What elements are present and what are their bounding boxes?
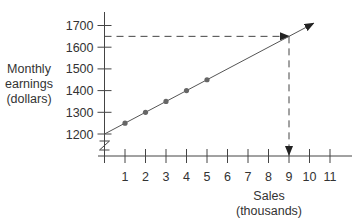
data-point [184,88,189,93]
x-tick-label: 10 [303,170,317,184]
x-tick-label: 8 [265,170,272,184]
chart: 120013001400150016001700 1234567891011 [0,0,360,221]
x-tick-label: 4 [183,170,190,184]
y-tick-label: 1200 [66,128,94,142]
x-tick-label: 3 [163,170,170,184]
x-axis-label-line-1: Sales [224,189,314,204]
y-axis-label: Monthly earnings (dollars) [0,62,58,107]
x-tick-label: 1 [122,170,129,184]
data-points [122,77,209,126]
y-tick-label: 1500 [66,62,94,76]
y-tick-label: 1300 [66,106,94,120]
x-axis-label: Sales (thousands) [224,189,314,219]
y-tick-label: 1400 [66,84,94,98]
x-tick-label: 2 [142,170,149,184]
dashed-annotations [105,36,290,155]
y-tick-label: 1600 [66,41,94,55]
y-axis-label-line-3: (dollars) [0,92,58,107]
x-tick-label: 11 [324,170,337,184]
data-point [143,110,148,115]
x-axis-ticks: 1234567891011 [122,149,337,184]
x-axis-label-line-2: (thousands) [224,204,314,219]
data-point [122,121,127,126]
axes [98,12,352,163]
data-point [204,77,209,82]
x-tick-label: 9 [286,170,293,184]
data-point [163,99,168,104]
x-tick-label: 6 [224,170,231,184]
x-tick-label: 5 [204,170,211,184]
y-axis-label-line-2: earnings [0,77,58,92]
y-tick-label: 1700 [66,19,94,33]
x-tick-label: 7 [245,170,252,184]
y-axis-label-line-1: Monthly [0,62,58,77]
